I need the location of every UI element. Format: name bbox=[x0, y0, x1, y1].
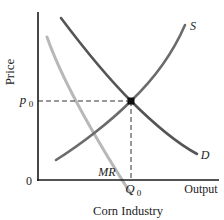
origin-label: 0 bbox=[26, 174, 32, 188]
marginal-revenue-curve bbox=[47, 37, 131, 194]
x-axis-label: Output bbox=[184, 182, 218, 196]
price-label-base: p bbox=[19, 92, 27, 107]
caption: Corn Industry bbox=[93, 204, 164, 218]
demand-curve bbox=[61, 18, 197, 154]
corn-industry-diagram: Price 0 Output Corn Industry p 0 Q 0 S D… bbox=[0, 0, 224, 220]
demand-label: D bbox=[200, 148, 210, 162]
quantity-label-subscript: 0 bbox=[137, 188, 142, 198]
supply-label: S bbox=[190, 19, 196, 33]
y-axis-label: Price bbox=[2, 58, 17, 85]
equilibrium-price-label: p 0 bbox=[19, 92, 34, 109]
price-label-subscript: 0 bbox=[29, 99, 34, 109]
equilibrium-quantity-label: Q 0 bbox=[125, 181, 141, 198]
quantity-label-base: Q bbox=[125, 181, 135, 196]
marginal-revenue-label: MR bbox=[97, 165, 116, 179]
equilibrium-point bbox=[128, 98, 135, 105]
supply-curve bbox=[56, 25, 185, 160]
